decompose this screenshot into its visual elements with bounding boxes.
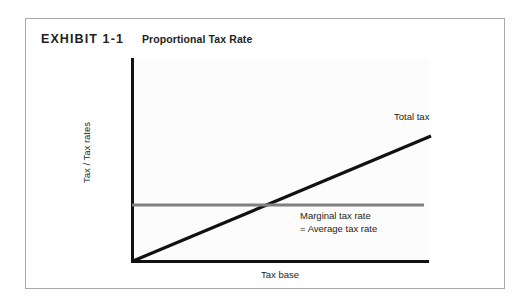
chart: Tax / Tax rates Tax base Total tax Margi… <box>26 19 506 290</box>
marginal-tax-rate-label: Marginal tax rate <box>300 209 377 222</box>
chart-series-layer <box>26 19 506 290</box>
rate-series-annotation: Marginal tax rate = Average tax rate <box>300 209 377 235</box>
x-axis-label: Tax base <box>131 269 429 280</box>
total-tax-series-label: Total tax <box>394 111 429 122</box>
average-tax-rate-label: = Average tax rate <box>300 222 377 235</box>
exhibit-frame: EXHIBIT 1-1 Proportional Tax Rate Tax / … <box>25 18 505 289</box>
y-axis-label: Tax / Tax rates <box>81 88 92 218</box>
total-tax-line <box>133 136 431 261</box>
